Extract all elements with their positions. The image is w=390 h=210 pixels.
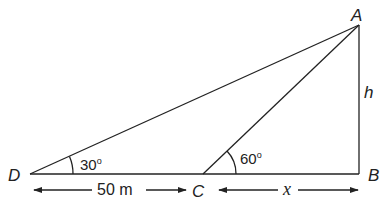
segment-DA — [30, 25, 359, 174]
angle-label-D: 30o — [80, 156, 102, 173]
point-label-D: D — [8, 166, 20, 185]
angle-label-C: 60o — [240, 150, 262, 167]
length-label-DC: 50 m — [97, 181, 133, 198]
diagram-canvas: A B C D 30o 60o h 50 m x — [0, 0, 390, 210]
angle-arc-D — [70, 157, 74, 175]
point-label-C: C — [192, 182, 205, 201]
point-label-A: A — [350, 6, 362, 25]
point-label-B: B — [368, 166, 379, 185]
length-label-x: x — [282, 179, 291, 199]
segment-CA — [203, 25, 359, 174]
length-label-h: h — [364, 83, 373, 102]
angle-arc-C — [227, 151, 236, 174]
